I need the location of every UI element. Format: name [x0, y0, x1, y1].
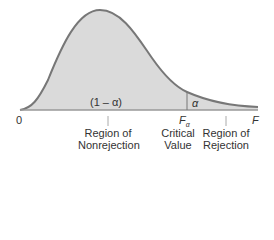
annotation-rejection: Region ofRejection	[200, 127, 252, 151]
nonrejection-area-label: (1 – α)	[90, 96, 122, 108]
alpha-area-label: α	[192, 97, 198, 109]
x-axis-label: F	[252, 114, 259, 126]
annotation-nonrejection: Region ofNonrejection	[78, 127, 138, 151]
annotation-critical-value: CriticalValue	[160, 127, 196, 151]
origin-label: 0	[16, 114, 22, 126]
